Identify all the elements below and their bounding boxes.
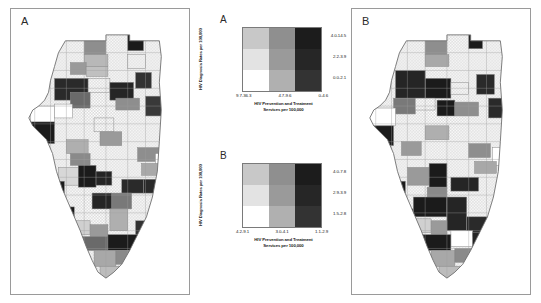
legend-a-cell-r1c1 bbox=[269, 49, 295, 70]
legend-b-cell-r1c0 bbox=[243, 185, 269, 206]
legend-b-y-title: HIV Diagnosis Rates per 100,000 bbox=[198, 164, 203, 226]
legend-a-cell-r0c1 bbox=[269, 28, 295, 49]
legend-a-matrix bbox=[242, 27, 322, 92]
legend-b-letter: B bbox=[220, 150, 227, 161]
legend-b-cell-r2c0 bbox=[243, 206, 269, 227]
legend-b-x-label-2: 1.1-2.9 bbox=[315, 229, 328, 234]
map-a-holder bbox=[11, 23, 189, 290]
legend-b-x-title-line2: Services per 100,000 bbox=[226, 243, 341, 249]
legend-a-cell-r2c2 bbox=[295, 70, 321, 91]
legend-a-cell-r2c1 bbox=[269, 70, 295, 91]
illinois-counties-a bbox=[11, 23, 189, 290]
map-panel-b: B bbox=[351, 8, 531, 295]
legend-b-cell-r0c1 bbox=[269, 164, 295, 185]
legend-b-cell-r2c1 bbox=[269, 206, 295, 227]
legend-b-x-label-0: 4.2-9.1 bbox=[236, 229, 249, 234]
map-panel-a: A bbox=[10, 8, 190, 295]
map-b-holder bbox=[352, 23, 530, 290]
legend-a-cell-r2c0 bbox=[243, 70, 269, 91]
legend-a-x-labels: 9.7-36.3 4.7-9.6 0-4.6 bbox=[236, 93, 328, 98]
illinois-choropleth-b bbox=[352, 23, 530, 290]
illinois-counties-b bbox=[352, 23, 530, 290]
legend-a-x-label-0: 9.7-36.3 bbox=[236, 93, 251, 98]
legend-b-x-labels: 4.2-9.1 3.0-4.1 1.1-2.9 bbox=[236, 229, 328, 234]
illinois-choropleth-a bbox=[11, 23, 189, 290]
legend-b-matrix bbox=[242, 163, 322, 228]
figure-canvas: A bbox=[0, 0, 541, 303]
legend-a-cell-r1c2 bbox=[295, 49, 321, 70]
legend-a-y-title: HIV Diagnosis Rates per 100,000 bbox=[198, 28, 203, 90]
legend-b-cell-r2c2 bbox=[295, 206, 321, 227]
legend-b-cell-r1c1 bbox=[269, 185, 295, 206]
legend-a-x-title: HIV Prevention and Treatment Services pe… bbox=[226, 101, 341, 113]
legend-a-cell-r0c0 bbox=[243, 28, 269, 49]
legend-b-x-label-1: 3.0-4.1 bbox=[276, 229, 289, 234]
legend-a-letter: A bbox=[220, 14, 227, 25]
legend-a-x-label-1: 4.7-9.6 bbox=[278, 93, 291, 98]
legend-b-cell-r1c2 bbox=[295, 185, 321, 206]
legend-a-cell-r1c0 bbox=[243, 49, 269, 70]
legend-b-cell-r0c2 bbox=[295, 164, 321, 185]
legend-b-x-title: HIV Prevention and Treatment Services pe… bbox=[226, 237, 341, 249]
legend-b-cell-r0c0 bbox=[243, 164, 269, 185]
legend-a-x-label-2: 0-4.6 bbox=[318, 93, 328, 98]
legend-a-cell-r0c2 bbox=[295, 28, 321, 49]
legend-a-x-title-line2: Services per 100,000 bbox=[226, 107, 341, 113]
